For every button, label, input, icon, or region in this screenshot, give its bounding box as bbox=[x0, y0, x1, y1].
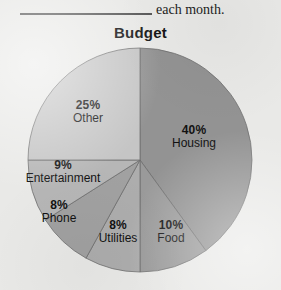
pie-label-housing-category: Housing bbox=[158, 137, 230, 150]
pie-label-housing: 40% Housing bbox=[158, 124, 230, 150]
pie-label-utilities-category: Utilities bbox=[84, 232, 152, 245]
pie-chart: 40% Housing 10% Food 8% Utilities 8% Pho… bbox=[0, 0, 281, 290]
pie-label-phone-category: Phone bbox=[28, 212, 90, 225]
pie-label-entertainment-category: Entertainment bbox=[8, 172, 118, 185]
pie-label-other-category: Other bbox=[52, 112, 124, 125]
pie-label-entertainment: 9% Entertainment bbox=[8, 159, 118, 185]
pie-chart-svg bbox=[0, 0, 281, 290]
pie-label-other: 25% Other bbox=[52, 99, 124, 125]
pie-label-phone: 8% Phone bbox=[28, 199, 90, 225]
pie-label-utilities: 8% Utilities bbox=[84, 219, 152, 245]
